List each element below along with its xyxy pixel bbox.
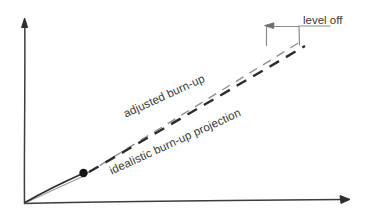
diagram-canvas: adjusted burn-up idealistic burn-up proj… xyxy=(0,0,368,217)
series-idealistic-burn-up-projection xyxy=(25,46,305,203)
idealistic-actual-segment xyxy=(25,173,85,203)
y-axis-arrowhead xyxy=(22,18,28,28)
current-progress-point-marker xyxy=(79,169,87,177)
level-off-annotation-bracket xyxy=(265,23,331,46)
x-axis-arrowhead xyxy=(340,196,350,204)
series-adjusted-burn-up xyxy=(25,42,300,203)
y-axis xyxy=(22,18,28,203)
adjusted-projection-segment xyxy=(86,42,300,174)
burn-up-chart-figure xyxy=(0,0,368,217)
annotation-label-level-off: level off xyxy=(303,14,342,26)
adjusted-actual-segment xyxy=(25,176,84,203)
x-axis xyxy=(25,196,351,204)
